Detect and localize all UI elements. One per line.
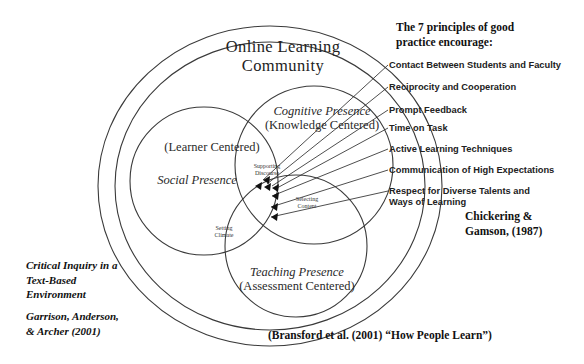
selecting-content-label: Selecting Content	[285, 196, 329, 210]
cognitive-presence-subtitle: (Knowledge Centered)	[248, 118, 396, 132]
critical-inquiry-label: Critical Inquiry in a Text-Based Environ…	[26, 258, 166, 302]
principle-item-5: Active Learning Techniques	[389, 144, 584, 155]
teaching-presence-title: Teaching Presence	[232, 265, 362, 279]
bransford-citation: (Bransford et al. (2001) “How People Lea…	[268, 329, 578, 342]
principles-heading: The 7 principles of good practice encour…	[396, 20, 582, 49]
cognitive-presence-title: Cognitive Presence	[252, 104, 392, 118]
arrowhead-7	[271, 213, 278, 221]
garrison-anderson-archer-citation: Garrison, Anderson, & Archer (2001)	[26, 309, 178, 338]
arrowhead-2	[255, 182, 262, 190]
social-presence-title: Social Presence	[141, 173, 253, 187]
principle-item-4: Time on Task	[389, 123, 584, 134]
diagram-page: Online Learning Community Cognitive Pres…	[0, 0, 584, 364]
teaching-presence-subtitle: (Assessment Centered)	[222, 279, 372, 293]
principle-item-1: Contact Between Students and Faculty	[389, 60, 584, 71]
principle-item-2: Reciprocity and Cooperation	[389, 82, 584, 93]
social-presence-subtitle: (Learner Centered)	[148, 140, 276, 154]
chickering-gamson-attribution: Chickering & Gamson, (1987)	[465, 209, 579, 239]
arrowhead-3	[264, 183, 271, 191]
online-learning-community-title: Online Learning Community	[198, 38, 368, 76]
supporting-discourse-label: Supporting Discourse	[243, 163, 291, 177]
connector-line-4	[277, 128, 388, 188]
setting-climate-label: Setting Climate	[203, 225, 245, 239]
principle-item-3: Prompt Feedback	[389, 105, 584, 116]
principle-item-6: Communication of High Expectations	[389, 165, 584, 176]
principle-connector-lines	[263, 65, 388, 217]
principle-item-7: Respect for Diverse Talents and Ways of …	[389, 186, 584, 208]
